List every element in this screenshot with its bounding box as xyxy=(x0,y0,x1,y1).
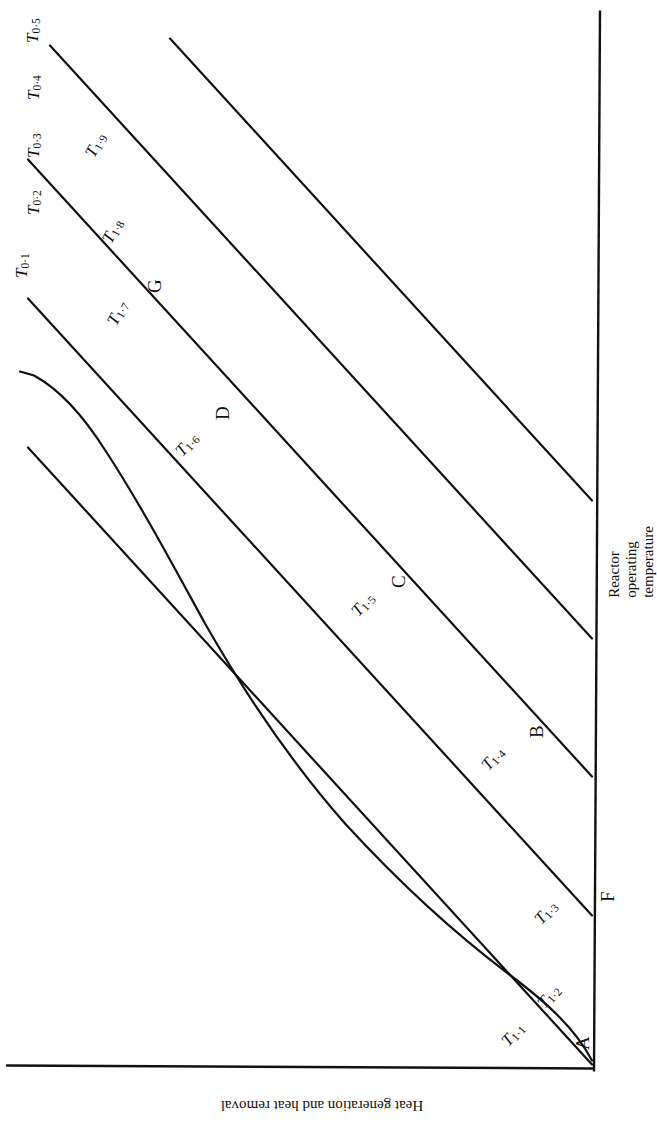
point-label-D: D xyxy=(213,406,232,420)
point-label-B: B xyxy=(527,725,546,738)
point-label-C: C xyxy=(389,575,408,588)
removal-line-4 xyxy=(50,45,592,638)
removal-line-label-3: T0·3 xyxy=(25,133,44,158)
removal-line-5 xyxy=(170,38,592,500)
removal-line-label-4: T0·4 xyxy=(25,75,44,100)
x-axis xyxy=(594,10,600,1071)
y-axis xyxy=(6,1065,594,1068)
point-label-F: F xyxy=(598,891,617,902)
point-label-A: A xyxy=(573,1036,592,1050)
removal-line-2 xyxy=(28,298,592,915)
heat-generation-curve xyxy=(20,371,592,1060)
removal-line-label-1: T0·1 xyxy=(13,253,32,278)
y-axis-title-wrap: Heat generation and heat removal xyxy=(0,1097,644,1115)
heat-removal-lines xyxy=(28,38,592,1064)
x-axis-title-wrap: Reactor operating temperature xyxy=(620,0,642,1123)
x-axis-title: Reactor operating temperature xyxy=(606,526,657,598)
removal-line-3 xyxy=(28,159,592,776)
point-label-G: G xyxy=(145,279,164,293)
removal-line-label-5: T0·5 xyxy=(24,18,43,43)
removal-line-label-2: T0·2 xyxy=(25,190,44,215)
y-axis-title: Heat generation and heat removal xyxy=(221,1098,423,1114)
